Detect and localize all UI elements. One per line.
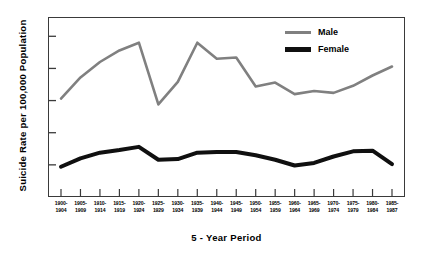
- legend-item-male: Male: [285, 24, 349, 41]
- x-tick-label-start: 1985-: [386, 200, 399, 206]
- y-axis-title: Suicide Rate per 100,000 Population: [17, 11, 28, 201]
- legend-swatch-female: [285, 47, 311, 52]
- legend-label-female: Female: [318, 45, 349, 54]
- x-tick-label: 1985-1987: [372, 200, 412, 214]
- legend-item-female: Female: [285, 41, 349, 58]
- x-axis-title: 5 - Year Period: [48, 232, 405, 243]
- x-axis-tick-labels: 1900-19041905-19091910-19141915-19191920…: [48, 200, 405, 226]
- suicide-rate-line-chart: Suicide Rate per 100,000 Population 5101…: [0, 0, 425, 255]
- x-tick-label-end: 1987: [372, 207, 412, 214]
- plot-area: [48, 17, 405, 197]
- chart-legend: MaleFemale: [285, 24, 349, 58]
- legend-label-male: Male: [318, 28, 338, 37]
- legend-swatch-male: [285, 31, 311, 34]
